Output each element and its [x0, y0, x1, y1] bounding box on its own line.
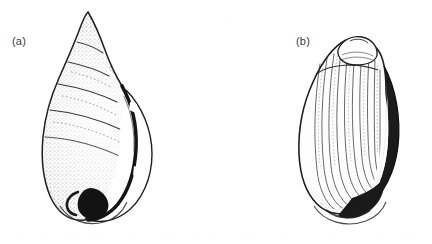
specimen-illustration-a	[38, 6, 178, 230]
panel-label-a: (a)	[12, 35, 26, 47]
figure-canvas: (a) (b)	[0, 0, 432, 244]
specimen-illustration-b	[280, 30, 420, 230]
